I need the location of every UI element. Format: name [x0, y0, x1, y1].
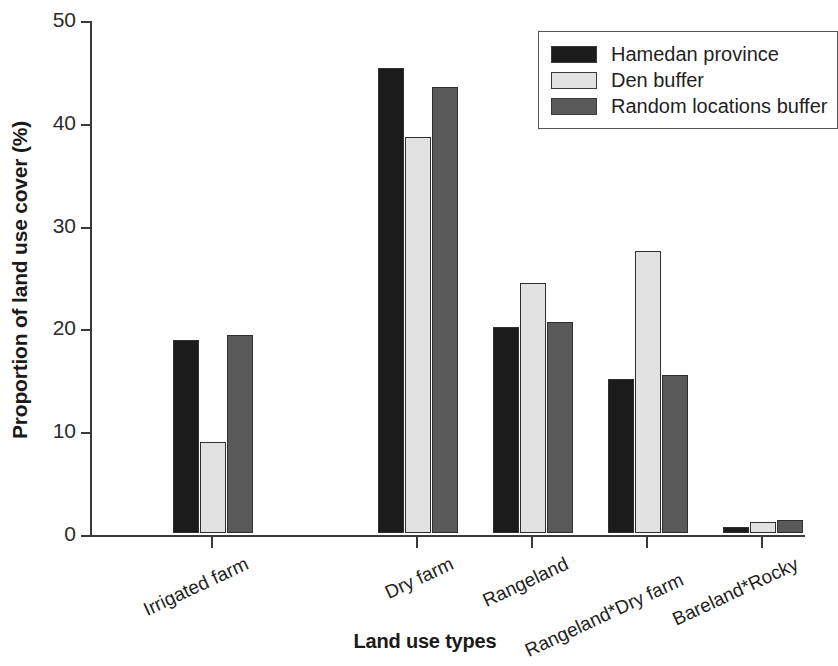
bar — [608, 379, 634, 533]
x-axis-tick — [531, 537, 533, 548]
legend-color-swatch — [551, 72, 597, 89]
legend-label: Hamedan province — [611, 43, 779, 65]
bar — [200, 442, 226, 533]
bar — [405, 137, 431, 533]
bar — [378, 68, 404, 533]
x-axis-tick — [646, 537, 648, 548]
x-axis-title: Land use types — [300, 630, 550, 653]
x-axis-tick — [416, 537, 418, 548]
y-axis-tick: 50 — [81, 21, 90, 23]
y-axis-tick-label: 20 — [53, 317, 76, 339]
y-axis-tick-label: 0 — [64, 523, 76, 545]
legend-color-swatch — [551, 98, 597, 115]
y-axis-tick: 10 — [81, 432, 90, 434]
bar — [750, 522, 776, 533]
legend-label: Den buffer — [611, 69, 704, 91]
y-axis-tick-label: 30 — [53, 215, 76, 237]
bar — [173, 340, 199, 533]
bar — [723, 527, 749, 533]
y-axis-tick: 40 — [81, 124, 90, 126]
y-axis-tick: 0 — [81, 535, 90, 537]
legend-item: Random locations buffer — [551, 93, 827, 119]
bar — [635, 251, 661, 533]
y-axis-tick-label: 40 — [53, 112, 76, 134]
bar — [662, 375, 688, 533]
bar — [520, 283, 546, 533]
bar — [777, 520, 803, 533]
y-axis-line — [90, 21, 92, 536]
y-axis-tick: 20 — [81, 329, 90, 331]
legend-item: Den buffer — [551, 67, 827, 93]
x-axis-tick — [761, 537, 763, 548]
y-axis-tick-label: 10 — [53, 420, 76, 442]
bar — [432, 87, 458, 533]
bar — [493, 327, 519, 533]
x-axis-line — [90, 535, 805, 537]
legend-label: Random locations buffer — [611, 95, 827, 117]
legend-item: Hamedan province — [551, 41, 827, 67]
chart-legend: Hamedan provinceDen bufferRandom locatio… — [538, 31, 838, 129]
bar — [227, 335, 253, 533]
x-axis-tick — [211, 537, 213, 548]
bar — [547, 322, 573, 533]
y-axis-title: Proportion of land use cover (%) — [2, 0, 38, 560]
x-axis-category-label: Irrigated farm — [0, 553, 251, 666]
y-axis-tick: 30 — [81, 227, 90, 229]
y-axis-tick-label: 50 — [53, 9, 76, 31]
legend-color-swatch — [551, 46, 597, 63]
